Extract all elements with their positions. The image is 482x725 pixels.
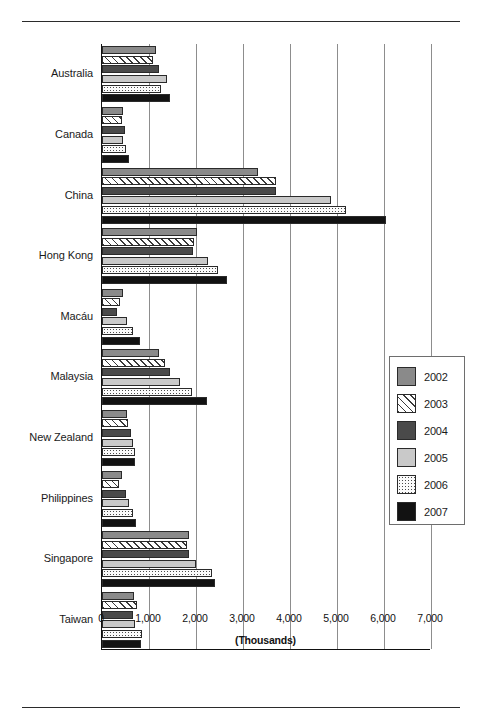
bar <box>102 592 134 600</box>
bar <box>102 448 135 456</box>
legend-swatch-2004 <box>397 421 416 440</box>
bar <box>102 177 276 185</box>
gridline-7000 <box>431 44 432 649</box>
bar-group: China <box>102 168 430 224</box>
category-label: Philippines <box>0 492 93 504</box>
bar <box>102 116 122 124</box>
bar <box>102 429 131 437</box>
legend-item: 2006 <box>397 471 464 498</box>
bar <box>102 145 126 153</box>
category-label: Australia <box>0 67 93 79</box>
legend-item: 2005 <box>397 444 464 471</box>
bar <box>102 349 159 357</box>
category-label: Hong Kong <box>0 249 93 261</box>
bar-group: Australia <box>102 46 430 102</box>
plot-area: AustraliaCanadaChinaHong KongMacáuMalays… <box>101 44 430 650</box>
bar <box>102 85 161 93</box>
bar-group: New Zealand <box>102 410 430 466</box>
bar <box>102 560 196 568</box>
bar <box>102 388 192 396</box>
legend-item: 2004 <box>397 417 464 444</box>
bar <box>102 480 119 488</box>
bar-group: Macáu <box>102 289 430 345</box>
category-label: Macáu <box>0 310 93 322</box>
x-axis-title: (Thousands) <box>101 634 430 646</box>
bar <box>102 126 125 134</box>
legend-item: 2002 <box>397 363 464 390</box>
bar-group: Hong Kong <box>102 228 430 284</box>
bar <box>102 541 187 549</box>
legend-label: 2002 <box>424 371 448 383</box>
bar <box>102 509 133 517</box>
bar <box>102 228 197 236</box>
x-tick-label-6000: 6,000 <box>356 612 410 624</box>
bar <box>102 490 126 498</box>
bar <box>102 276 227 284</box>
bar <box>102 196 331 204</box>
bar <box>102 298 120 306</box>
legend-swatch-2002 <box>397 367 416 386</box>
bar <box>102 439 133 447</box>
legend-label: 2005 <box>424 452 448 464</box>
x-tick-label-7000: 7,000 <box>403 612 457 624</box>
bar <box>102 410 127 418</box>
x-tick-label-2000: 2,000 <box>168 612 222 624</box>
bar <box>102 471 122 479</box>
bar <box>102 519 136 527</box>
bar <box>102 187 276 195</box>
x-tick-label-1000: 1,000 <box>121 612 175 624</box>
bar <box>102 168 258 176</box>
legend-swatch-2003 <box>397 394 416 413</box>
legend-label: 2004 <box>424 425 448 437</box>
legend-label: 2007 <box>424 506 448 518</box>
legend: 200220032004200520062007 <box>389 356 465 525</box>
bar <box>102 216 386 224</box>
bar <box>102 569 212 577</box>
bar <box>102 94 170 102</box>
bar <box>102 308 117 316</box>
bar <box>102 327 133 335</box>
bar <box>102 266 218 274</box>
bar <box>102 56 153 64</box>
legend-swatch-2006 <box>397 475 416 494</box>
category-label: Canada <box>0 128 93 140</box>
bar-chart-figure: AustraliaCanadaChinaHong KongMacáuMalays… <box>0 0 482 725</box>
bar <box>102 75 167 83</box>
legend-item: 2007 <box>397 498 464 525</box>
bar <box>102 419 128 427</box>
bar <box>102 289 123 297</box>
bar <box>102 238 194 246</box>
bar <box>102 601 137 609</box>
bar <box>102 458 135 466</box>
bar <box>102 317 127 325</box>
legend-item: 2003 <box>397 390 464 417</box>
legend-swatch-2005 <box>397 448 416 467</box>
bar <box>102 257 208 265</box>
bar <box>102 107 123 115</box>
bar <box>102 397 207 405</box>
category-label: Singapore <box>0 552 93 564</box>
bar <box>102 499 129 507</box>
bar <box>102 531 189 539</box>
bar <box>102 359 165 367</box>
x-tick-label-4000: 4,000 <box>262 612 316 624</box>
x-tick-label-5000: 5,000 <box>309 612 363 624</box>
bar <box>102 368 170 376</box>
bar-group: Canada <box>102 107 430 163</box>
bar <box>102 46 156 54</box>
x-tick-label-3000: 3,000 <box>215 612 269 624</box>
bar <box>102 550 189 558</box>
bar <box>102 206 346 214</box>
bar <box>102 155 129 163</box>
category-label: China <box>0 189 93 201</box>
bar-group: Malaysia <box>102 349 430 405</box>
legend-label: 2003 <box>424 398 448 410</box>
category-label: New Zealand <box>0 431 93 443</box>
bar <box>102 247 193 255</box>
x-tick-label-0: 0 <box>74 612 128 624</box>
bar-group: Singapore <box>102 531 430 587</box>
bar <box>102 337 140 345</box>
bar <box>102 65 159 73</box>
bar <box>102 579 215 587</box>
bar <box>102 136 123 144</box>
